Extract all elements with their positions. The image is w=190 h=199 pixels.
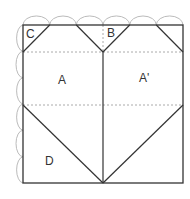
- label-a: A: [58, 73, 66, 87]
- left-arcs: [16, 25, 23, 183]
- top-arcs: [23, 16, 183, 25]
- label-a-prime: A': [139, 71, 149, 85]
- label-c: C: [26, 27, 35, 41]
- heart-crease-diagram: C B A A' D: [0, 0, 190, 199]
- label-b: B: [107, 26, 115, 40]
- label-d: D: [45, 154, 54, 168]
